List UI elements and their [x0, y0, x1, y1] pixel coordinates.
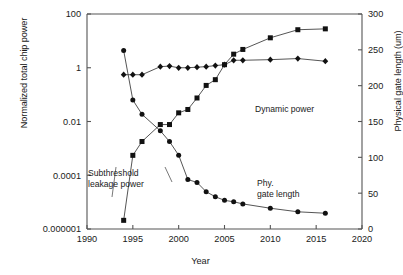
y-axis-left-title: Normalized total chip power — [19, 0, 29, 153]
data-point — [295, 209, 300, 214]
data-point — [222, 198, 227, 203]
data-point — [130, 98, 135, 103]
data-point — [195, 95, 200, 100]
data-point — [130, 153, 135, 158]
tick-labels-group: 199019952000200520102015202010010.010.00… — [43, 9, 384, 244]
data-point — [295, 55, 301, 61]
data-point — [185, 177, 190, 182]
y-tick-label-right: 150 — [368, 117, 383, 127]
y-tick-label-right: 100 — [368, 153, 383, 163]
x-tick-label: 2000 — [168, 234, 188, 244]
data-point — [185, 107, 190, 112]
data-point — [157, 64, 163, 70]
x-tick-label: 2015 — [306, 234, 326, 244]
data-point — [240, 47, 245, 52]
data-point — [213, 77, 218, 82]
y-tick-label-left: 100 — [66, 9, 81, 19]
y-tick-label-right: 250 — [368, 45, 383, 55]
data-point — [176, 65, 182, 71]
data-point — [185, 65, 191, 71]
y-tick-label-left: 0.0001 — [53, 171, 81, 181]
data-point — [204, 189, 209, 194]
data-point — [213, 194, 218, 199]
data-point — [231, 52, 236, 57]
data-point — [323, 211, 328, 216]
y-tick-label-right: 50 — [368, 189, 378, 199]
axes-group — [87, 14, 362, 229]
data-point — [195, 180, 200, 185]
data-point — [167, 122, 172, 127]
x-tick-label: 2020 — [352, 234, 372, 244]
annotation-phy-gate-length: Phy.gate length — [257, 178, 300, 199]
data-point — [130, 72, 136, 78]
data-point — [121, 72, 127, 78]
data-point — [167, 139, 172, 144]
data-point — [268, 206, 273, 211]
data-point — [194, 64, 200, 70]
x-tick-label: 1995 — [123, 234, 143, 244]
annotation-line: Phy. — [257, 178, 300, 189]
data-point — [121, 48, 126, 53]
y-tick-label-right: 200 — [368, 81, 383, 91]
x-tick-label: 2005 — [214, 234, 234, 244]
data-point — [204, 83, 209, 88]
data-point — [139, 72, 145, 78]
data-point — [203, 64, 209, 70]
data-point — [140, 139, 145, 144]
annotation-line: gate length — [257, 189, 300, 200]
data-point — [231, 199, 236, 204]
data-point — [212, 62, 218, 68]
y-tick-label-right: 300 — [368, 9, 383, 19]
y-tick-label-right: 0 — [368, 224, 373, 234]
y-tick-label-left: 1 — [76, 63, 81, 73]
annotation-line: leakage power — [88, 179, 144, 190]
data-point — [240, 201, 245, 206]
data-point — [322, 58, 328, 64]
data-point — [231, 57, 237, 63]
x-axis-title: Year — [0, 256, 401, 266]
annotation-subthreshold-leakage-power: Subthresholdleakage power — [88, 168, 144, 189]
data-point — [295, 27, 300, 32]
data-point — [158, 128, 163, 133]
annotation-line: Dynamic power — [255, 104, 314, 115]
annotation-dynamic-power: Dynamic power — [255, 104, 314, 115]
annotation-line: Subthreshold — [88, 168, 144, 179]
data-point — [167, 63, 173, 69]
x-tick-label: 1990 — [77, 234, 97, 244]
data-point — [323, 26, 328, 31]
data-point — [176, 110, 181, 115]
x-tick-label: 2010 — [260, 234, 280, 244]
data-point — [158, 122, 163, 127]
y-tick-label-left: 0.000001 — [43, 224, 81, 234]
data-point — [240, 57, 246, 63]
data-point — [140, 112, 145, 117]
data-point — [268, 35, 273, 40]
data-point — [121, 218, 126, 223]
data-point — [176, 153, 181, 158]
y-tick-label-left: 0.01 — [63, 117, 81, 127]
data-point — [267, 57, 273, 63]
y-axis-right-title: Physical gate length (um) — [393, 1, 403, 161]
data-point — [222, 62, 227, 67]
